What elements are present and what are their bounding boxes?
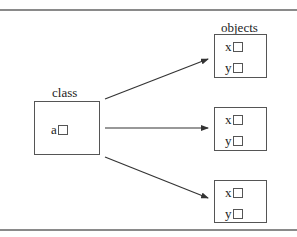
arrows-layer bbox=[0, 0, 297, 237]
arrow-to-object-1 bbox=[105, 59, 208, 99]
arrow-to-object-3 bbox=[105, 157, 208, 198]
